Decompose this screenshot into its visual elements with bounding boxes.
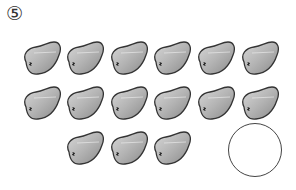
bean-icon: [63, 40, 105, 76]
bean-icon: [63, 85, 105, 121]
bean-icon: [107, 40, 149, 76]
bean-icon: [238, 85, 280, 121]
bean-icon: [20, 85, 62, 121]
bean-icon: [150, 85, 192, 121]
bean-icon: [107, 85, 149, 121]
answer-circle[interactable]: [228, 123, 282, 177]
bean-icon: [194, 40, 236, 76]
bean-icon: [238, 40, 280, 76]
bean-icon: [63, 130, 105, 166]
bean-icon: [150, 130, 192, 166]
bean-icon: [20, 40, 62, 76]
bean-icon: [194, 85, 236, 121]
bean-icon: [150, 40, 192, 76]
bean-icon: [107, 130, 149, 166]
problem-number: ⑤: [6, 4, 23, 23]
